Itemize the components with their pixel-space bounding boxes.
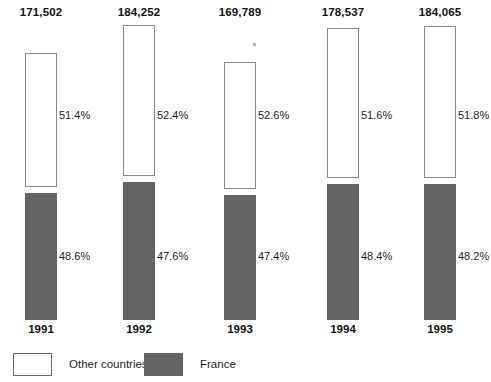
bar-percent-label-france: 47.4% [258,250,289,262]
bar-total-label: 184,252 [84,6,194,18]
bar-percent-label-france: 48.6% [59,250,90,262]
bar-total-label: 184,065 [385,6,491,18]
bar-segment-other-countries[interactable] [25,53,57,187]
bar-segment-france[interactable] [424,184,456,320]
bar-segment-france[interactable] [224,195,256,320]
bar-total-label: 171,502 [0,6,96,18]
bar-total-label: 178,537 [288,6,398,18]
x-axis-year-label: 1993 [195,323,285,335]
x-axis-year-label: 1992 [94,323,184,335]
bar-segment-other-countries[interactable] [224,62,256,189]
bar-percent-label-other-countries: 51.8% [458,109,489,121]
bar-percent-label-france: 48.4% [361,250,392,262]
chart-legend: Other countries France [0,350,491,382]
legend-item-france[interactable]: France [144,350,236,378]
legend-item-other-countries[interactable]: Other countries [13,350,148,378]
bar-segment-france[interactable] [25,193,57,320]
x-axis-year-label: 1994 [298,323,388,335]
bar-percent-label-other-countries: 51.6% [361,109,392,121]
bar-percent-label-other-countries: 51.4% [59,109,90,121]
bar-percent-label-other-countries: 52.6% [258,109,289,121]
legend-swatch-other-countries-icon [13,353,52,376]
legend-label-france: France [200,358,236,370]
bar-segment-france[interactable] [123,182,155,320]
bar-total-label: 169,789 [185,6,295,18]
bar-segment-other-countries[interactable] [123,25,155,176]
stacked-bar-chart: 171,502 51.4% 48.6% 1991 184,252 52.4% 4… [0,0,491,382]
bar-percent-label-france: 47.6% [157,250,188,262]
scan-artifact-speck [253,43,256,46]
bar-segment-other-countries[interactable] [424,26,456,178]
legend-swatch-france-icon [144,353,183,376]
legend-label-other-countries: Other countries [69,358,148,370]
bar-percent-label-france: 48.2% [458,250,489,262]
bar-segment-other-countries[interactable] [327,28,359,178]
bar-segment-france[interactable] [327,184,359,320]
x-axis-year-label: 1995 [395,323,485,335]
x-axis-year-label: 1991 [0,323,86,335]
bar-percent-label-other-countries: 52.4% [157,109,188,121]
